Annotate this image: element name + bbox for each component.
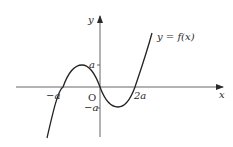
y-tick-label-neg-a: −a xyxy=(84,102,98,113)
function-graph: y x O a −a −a 2a y = f(x) xyxy=(0,0,233,147)
cubic-curve xyxy=(47,33,152,138)
x-tick-label-neg-a: −a xyxy=(46,90,60,101)
curve-label: y = f(x) xyxy=(156,31,195,42)
y-tick-label-a: a xyxy=(89,59,95,70)
x-axis-label: x xyxy=(219,89,225,100)
y-axis-label: y xyxy=(87,14,94,25)
x-tick-label-2a: 2a xyxy=(133,90,146,101)
